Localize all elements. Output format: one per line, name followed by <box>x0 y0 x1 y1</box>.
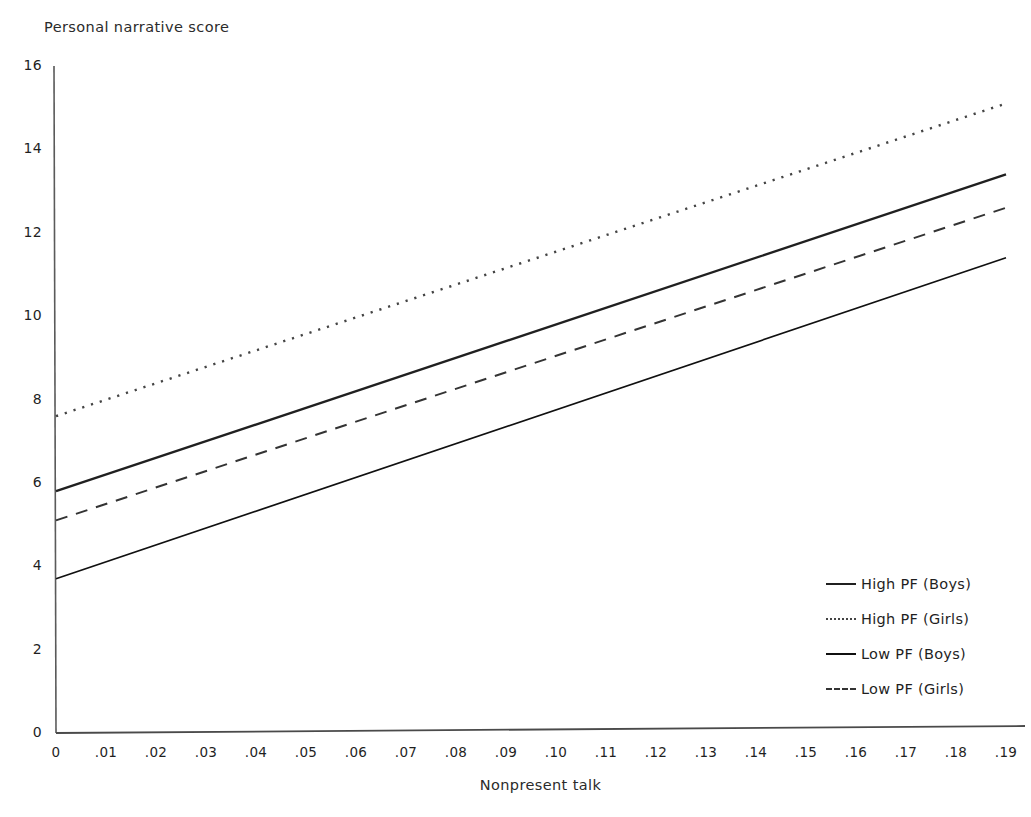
series-line <box>56 208 1006 521</box>
y-tick-label: 16 <box>8 57 42 73</box>
legend-line-swatch-icon <box>826 648 856 660</box>
chart-legend: High PF (Boys)High PF (Girls)Low PF (Boy… <box>826 566 1026 706</box>
y-tick-label: 6 <box>8 474 42 490</box>
x-tick-label: .07 <box>383 744 429 760</box>
x-tick-label: .15 <box>783 744 829 760</box>
legend-item-label: High PF (Boys) <box>861 576 971 592</box>
x-tick-label: .19 <box>983 744 1029 760</box>
x-tick-label: .10 <box>533 744 579 760</box>
series-line <box>56 258 1006 579</box>
x-tick-label: .02 <box>133 744 179 760</box>
y-tick-label: 12 <box>8 224 42 240</box>
legend-item[interactable]: Low PF (Girls) <box>826 671 1026 706</box>
legend-line-swatch-icon <box>826 613 856 625</box>
x-tick-label: .16 <box>833 744 879 760</box>
legend-line-swatch-icon <box>826 683 856 695</box>
y-axis-line <box>54 66 56 733</box>
y-tick-label: 2 <box>8 641 42 657</box>
chart-figure: Personal narrative score 0246810121416 0… <box>0 0 1031 817</box>
x-tick-label: .05 <box>283 744 329 760</box>
y-tick-label: 10 <box>8 307 42 323</box>
legend-item-label: High PF (Girls) <box>861 611 969 627</box>
y-tick-label: 14 <box>8 140 42 156</box>
legend-item[interactable]: High PF (Girls) <box>826 601 1026 636</box>
x-tick-label: .11 <box>583 744 629 760</box>
x-tick-label: .12 <box>633 744 679 760</box>
legend-item[interactable]: Low PF (Boys) <box>826 636 1026 671</box>
x-axis-line <box>56 726 1025 733</box>
y-tick-label: 8 <box>8 391 42 407</box>
legend-item-label: Low PF (Boys) <box>861 646 966 662</box>
x-tick-label: .08 <box>433 744 479 760</box>
x-tick-label: .14 <box>733 744 779 760</box>
x-tick-label: .04 <box>233 744 279 760</box>
x-axis-title-text: Nonpresent talk <box>480 777 602 793</box>
series-line <box>56 104 1006 417</box>
series-line <box>56 174 1006 491</box>
x-tick-label: .06 <box>333 744 379 760</box>
x-tick-label: .03 <box>183 744 229 760</box>
y-tick-label: 0 <box>8 724 42 740</box>
x-tick-label: .09 <box>483 744 529 760</box>
x-axis-title: Nonpresent talk <box>0 777 1031 793</box>
y-tick-label: 4 <box>8 557 42 573</box>
chart-series-lines <box>56 104 1006 579</box>
x-tick-label: 0 <box>33 744 79 760</box>
legend-item-label: Low PF (Girls) <box>861 681 964 697</box>
x-tick-label: .17 <box>883 744 929 760</box>
x-tick-label: .01 <box>83 744 129 760</box>
legend-line-swatch-icon <box>826 578 856 590</box>
x-tick-label: .13 <box>683 744 729 760</box>
legend-item[interactable]: High PF (Boys) <box>826 566 1026 601</box>
x-tick-label: .18 <box>933 744 979 760</box>
